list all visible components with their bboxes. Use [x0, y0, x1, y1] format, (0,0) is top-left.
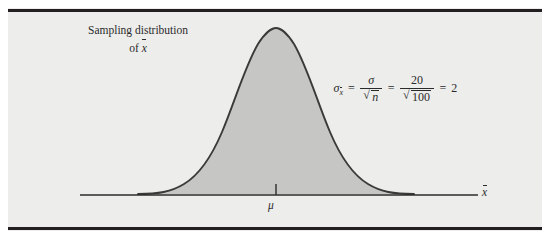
caption-of-text: of [129, 42, 141, 54]
caption: Sampling distribution of x [63, 22, 213, 56]
sqrt-icon-n: n [363, 90, 379, 104]
sampling-distribution-figure: Sampling distribution of x σx = σ n = 20… [0, 0, 550, 243]
standard-error-formula: σx = σ n = 20 100 = 2 [331, 74, 460, 103]
formula-sigma-subscript: x [339, 87, 343, 97]
formula-equals-3: = [440, 81, 447, 96]
formula-result: 2 [451, 81, 457, 96]
formula-fraction-sigma-over-sqrt-n: σ n [360, 74, 382, 103]
bottom-rule [8, 227, 542, 230]
formula-numerator-20: 20 [408, 74, 426, 88]
formula-equals-1: = [348, 81, 355, 96]
caption-xbar-symbol: x [142, 39, 147, 57]
formula-fraction-20-over-sqrt-100: 20 100 [400, 74, 434, 103]
formula-sigma-xbar: σx [334, 81, 343, 97]
formula-denominator-sqrt-n: n [360, 88, 382, 104]
sqrt-icon-100: 100 [403, 90, 431, 104]
caption-line-1: Sampling distribution [88, 24, 188, 36]
x-axis-label: x [482, 185, 487, 198]
formula-denominator-sqrt-100: 100 [400, 88, 434, 104]
caption-line-2: of x [63, 39, 213, 57]
formula-numerator-sigma: σ [365, 74, 377, 88]
formula-equals-2: = [388, 81, 395, 96]
mu-axis-label: μ [268, 199, 274, 211]
